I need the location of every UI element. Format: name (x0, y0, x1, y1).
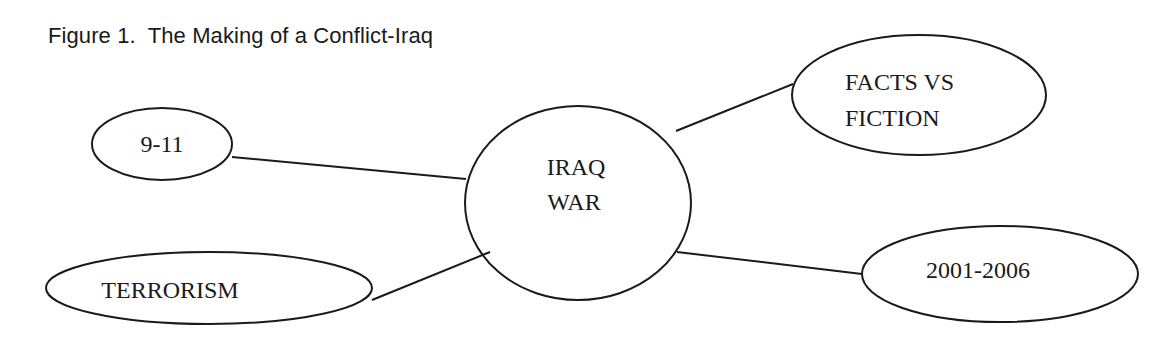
node-facts-vs-fiction-label-line2: FICTION (845, 105, 940, 131)
node-facts-vs-fiction-ellipse (792, 35, 1046, 155)
edge-terrorism-to-iraq-war (372, 252, 490, 300)
node-facts-vs-fiction-label-line1: FACTS VS (845, 69, 954, 95)
node-iraq-war-label-line1: IRAQ (547, 154, 606, 180)
node-2001-2006-label: 2001-2006 (926, 257, 1030, 283)
node-9-11: 9-11 (92, 108, 232, 180)
node-iraq-war: IRAQ WAR (465, 106, 691, 300)
edge-iraq-war-to-2001-2006 (677, 252, 862, 274)
node-facts-vs-fiction: FACTS VS FICTION (792, 35, 1046, 155)
edge-9-11-to-iraq-war (232, 157, 466, 179)
edge-iraq-war-to-facts-vs-fiction (676, 84, 793, 131)
node-terrorism-label: TERRORISM (101, 277, 238, 303)
node-terrorism: TERRORISM (46, 252, 372, 324)
mind-map-diagram: 9-11 TERRORISM IRAQ WAR FACTS VS FICTION… (0, 0, 1174, 341)
node-9-11-label: 9-11 (140, 131, 183, 157)
node-2001-2006: 2001-2006 (862, 226, 1138, 322)
node-iraq-war-label-line2: WAR (547, 189, 600, 215)
